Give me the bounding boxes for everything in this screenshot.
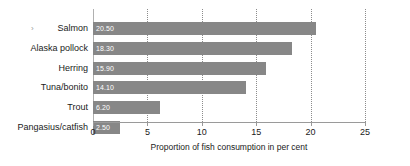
- bar-chart: › Salmon Alaska pollock Herring Tuna/bon…: [0, 0, 410, 166]
- bar-herring: [93, 62, 266, 75]
- bar-salmon: [93, 22, 316, 35]
- bar-value-label: 6.20: [96, 101, 110, 114]
- x-tick-mark: [93, 122, 94, 126]
- salmon-pointer-icon: ›: [31, 22, 34, 35]
- gridline-25: [365, 9, 366, 122]
- bar-value-label: 20.50: [96, 22, 114, 35]
- x-tick-label: 0: [90, 127, 95, 137]
- x-axis-title: Proportion of fish consumption in per ce…: [93, 142, 365, 152]
- category-label: Alaska pollock: [30, 42, 88, 55]
- x-tick-mark: [202, 122, 203, 126]
- x-tick-label: 5: [145, 127, 150, 137]
- bar-row: 14.10: [93, 81, 365, 94]
- x-tick-mark: [147, 122, 148, 126]
- bar-value-label: 15.90: [96, 62, 114, 75]
- bar-row: 15.90: [93, 62, 365, 75]
- bar-tuna-bonito: [93, 81, 246, 94]
- bars-group: 20.50 18.30 15.90 14.10 6.20 2.50: [93, 9, 365, 122]
- x-tick-mark: [256, 122, 257, 126]
- category-label: Herring: [58, 62, 88, 75]
- bar-row: 6.20: [93, 101, 365, 114]
- category-label: Pangasius/catfish: [17, 121, 88, 134]
- category-axis-labels: › Salmon Alaska pollock Herring Tuna/bon…: [0, 9, 88, 122]
- category-label: Trout: [67, 101, 88, 114]
- x-tick-mark: [365, 122, 366, 126]
- bar-value-label: 18.30: [96, 42, 114, 55]
- x-tick-mark: [311, 122, 312, 126]
- x-axis-line: [93, 122, 365, 123]
- x-tick-label: 20: [306, 127, 316, 137]
- x-tick-label: 10: [197, 127, 207, 137]
- bar-alaska-pollock: [93, 42, 292, 55]
- category-label: Tuna/bonito: [41, 81, 88, 94]
- bar-value-label: 14.10: [96, 81, 114, 94]
- bar-row: 20.50: [93, 22, 365, 35]
- category-label: Salmon: [57, 22, 88, 35]
- x-tick-label: 25: [360, 127, 370, 137]
- x-tick-label: 15: [251, 127, 261, 137]
- bar-row: 18.30: [93, 42, 365, 55]
- plot-area: 20.50 18.30 15.90 14.10 6.20 2.50: [93, 9, 365, 122]
